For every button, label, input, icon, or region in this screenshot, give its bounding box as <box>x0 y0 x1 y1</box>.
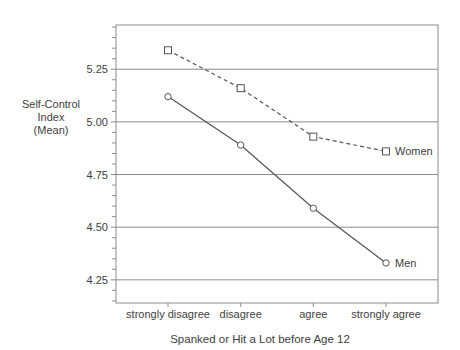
y-tick-label: 4.75 <box>87 169 108 181</box>
y-tick-label: 5.25 <box>87 63 108 75</box>
y-axis-label-line-2: Index <box>4 111 98 124</box>
series-label-women: Women <box>395 145 433 157</box>
women-square-marker <box>165 47 172 54</box>
y-axis-label: Self-Control Index (Mean) <box>4 98 98 137</box>
line-chart-figure: Self-Control Index (Mean) 5.255.004.754.… <box>0 0 460 350</box>
men-circle-marker <box>237 142 243 148</box>
y-axis-label-line-1: Self-Control <box>4 98 98 111</box>
x-category-label: agree <box>299 308 327 320</box>
women-square-marker <box>383 148 390 155</box>
women-square-marker <box>237 85 244 92</box>
x-category-label: strongly agree <box>351 308 421 320</box>
y-tick-label: 4.50 <box>87 221 108 233</box>
x-category-label: disagree <box>220 308 262 320</box>
plot-frame <box>116 25 438 303</box>
men-circle-marker <box>310 205 316 211</box>
x-axis-label: Spanked or Hit a Lot before Age 12 <box>110 333 410 345</box>
x-category-label: strongly disagree <box>126 308 210 320</box>
men-circle-marker <box>165 93 171 99</box>
y-axis-label-line-3: (Mean) <box>4 124 98 137</box>
women-line <box>168 50 386 151</box>
men-circle-marker <box>383 260 389 266</box>
y-tick-label: 4.25 <box>87 274 108 286</box>
women-square-marker <box>310 133 317 140</box>
line-chart-svg: 5.255.004.754.504.25strongly disagreedis… <box>0 0 460 350</box>
series-label-men: Men <box>395 257 416 269</box>
